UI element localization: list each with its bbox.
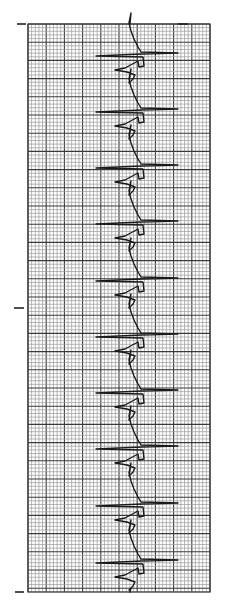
ecg-strip <box>0 0 227 614</box>
